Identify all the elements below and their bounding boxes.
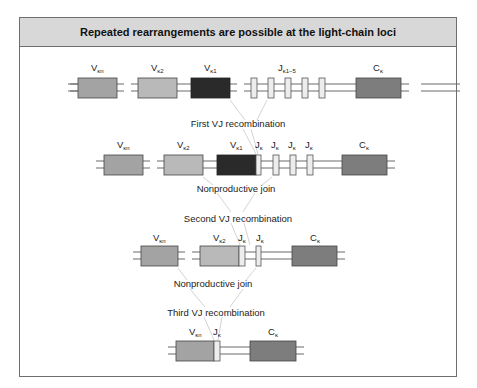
gene-j-k2 <box>268 78 274 98</box>
gene-j-k4 <box>302 78 308 98</box>
gene-v-kn <box>104 155 143 175</box>
gene-c-k <box>356 78 401 98</box>
gene-v-k2 <box>138 78 177 98</box>
gene-j <box>256 246 261 266</box>
row-germline: Vκn Vκ2 Vκ1 Jκ1–5 Cκ <box>58 62 460 98</box>
gene-j <box>273 155 279 175</box>
row-after-first: Vκn Vκ2 Vκ1 Jκ Jκ Jκ Jκ Cκ <box>96 139 395 175</box>
label-v-kn: Vκn <box>117 139 130 151</box>
gene-c-k <box>292 246 337 266</box>
label-v-kn: Vκn <box>153 232 166 244</box>
gene-j-k3 <box>285 78 291 98</box>
label-c-k: Cκ <box>268 326 279 338</box>
recombination-diagram: Vκn Vκ2 Vκ1 Jκ1–5 Cκ First VJ recombinat… <box>0 0 477 388</box>
gene-j <box>290 155 296 175</box>
caption-third-vj: Third VJ recombination <box>167 307 265 318</box>
label-v-k1: Vκ1 <box>204 62 217 74</box>
gene-v-k2 <box>164 155 203 175</box>
gene-j-k5 <box>319 78 325 98</box>
gene-c-k <box>250 341 296 361</box>
label-v-k1: Vκ1 <box>230 139 243 151</box>
label-j-k: Jκ <box>271 139 280 151</box>
gene-v-k1 <box>217 155 256 175</box>
label-v-k2: Vκ2 <box>213 232 226 244</box>
label-v-k2: Vκ2 <box>151 62 164 74</box>
gene-v-kn <box>141 246 178 266</box>
gene-v-kn <box>176 341 214 361</box>
caption-second-vj: Second VJ recombination <box>184 213 292 224</box>
gene-v-kn <box>78 78 117 98</box>
gene-c-k <box>342 155 387 175</box>
label-j-k: Jκ <box>256 232 265 244</box>
label-j-k: Jκ <box>305 139 314 151</box>
caption-nonproductive-1: Nonproductive join <box>197 183 276 194</box>
label-v-k2: Vκ2 <box>177 139 190 151</box>
gene-j-fused <box>256 155 261 175</box>
row-after-second: Vκn Vκ2 Jκ Jκ Cκ <box>133 232 345 266</box>
label-v-kn: Vκn <box>91 62 104 74</box>
label-j-k1-5: Jκ1–5 <box>278 62 296 74</box>
gene-j-fused <box>214 341 220 361</box>
label-c-k: Cκ <box>310 232 321 244</box>
label-j-k: Jκ <box>255 139 264 151</box>
gene-v-k1 <box>191 78 230 98</box>
label-j-k: Jκ <box>288 139 297 151</box>
label-c-k: Cκ <box>373 62 384 74</box>
label-j-k: Jκ <box>238 232 247 244</box>
gene-j-k1 <box>251 78 257 98</box>
gene-j <box>307 155 313 175</box>
row-after-third: Vκn Jκ Cκ <box>168 326 304 361</box>
caption-nonproductive-2: Nonproductive join <box>174 278 253 289</box>
label-v-kn: Vκn <box>189 326 202 338</box>
caption-first-vj: First VJ recombination <box>191 118 286 129</box>
label-c-k: Cκ <box>359 139 370 151</box>
gene-j-fused <box>239 246 245 266</box>
gene-v-k2 <box>200 246 239 266</box>
